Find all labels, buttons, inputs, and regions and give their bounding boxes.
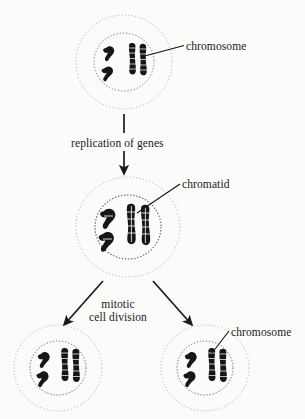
label-mitotic-line2: cell division [76, 311, 160, 324]
label-chromosome-top: chromosome [186, 40, 246, 52]
cell-membrane [76, 15, 172, 109]
leader-chromatid [137, 184, 180, 213]
chromosome-v-1 [103, 46, 114, 61]
chromosome-group [102, 43, 148, 81]
label-chromatid: chromatid [182, 178, 230, 190]
chromosome-v-2 [102, 66, 113, 81]
label-mitotic-cell-division: mitotic cell division [76, 298, 160, 324]
leader-chromosome-top [141, 46, 184, 58]
chromatid-pair-v-1 [100, 209, 115, 229]
label-replication-of-genes: replication of genes [71, 137, 164, 149]
parent-cell [76, 15, 172, 109]
label-mitotic-line1: mitotic [76, 298, 160, 311]
replicated-cell [76, 177, 180, 277]
chromosome-v-2 [37, 371, 49, 387]
chromosome-v-2 [184, 371, 196, 387]
daughter-cell-left [14, 325, 102, 411]
chromosome-group [99, 204, 151, 252]
chromosome-group [37, 348, 81, 387]
label-chromosome-bottom: chromosome [231, 326, 291, 338]
chromosome-v-1 [185, 352, 197, 368]
cell-membrane [76, 177, 180, 277]
mitosis-diagram-page: chromosome chromatid chromosome replicat… [0, 0, 305, 419]
chromosome-group [184, 348, 228, 387]
chromosome-v-1 [38, 352, 50, 368]
chromatid-pair-v-2 [99, 232, 114, 252]
diagram-canvas [0, 0, 305, 419]
cell-membrane [14, 325, 102, 411]
